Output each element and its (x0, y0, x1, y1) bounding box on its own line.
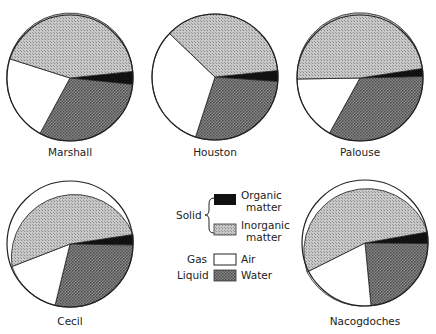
pie-label-cecil: Cecil (57, 315, 82, 327)
pie-label-marshall: Marshall (48, 146, 92, 158)
pie-marshall (6, 13, 133, 141)
pie-cecil (7, 181, 133, 307)
soil-composition-pie-charts: Marshall Houston Palouse Cecil Nacogdoch… (0, 0, 436, 334)
legend-label-air: Air (241, 253, 256, 265)
legend-label-water: Water (241, 269, 273, 281)
pie-label-nacogdoches: Nacogdoches (330, 315, 401, 327)
legend-label-inorganic-1: Inorganic (241, 219, 290, 231)
pie-label-houston: Houston (193, 146, 237, 158)
legend-group-gas: Gas (187, 253, 207, 265)
pie-nacogdoches (302, 180, 428, 306)
legend-label-inorganic-2: matter (246, 231, 282, 243)
slice-water (365, 243, 428, 306)
legend-swatch-water (214, 270, 236, 281)
pie-palouse (297, 13, 423, 141)
legend: Solid Organic matter Inorganic matter Ga… (176, 189, 290, 281)
legend-group-liquid: Liquid (177, 269, 209, 281)
legend-swatch-inorganic (214, 224, 236, 235)
legend-label-organic-1: Organic (241, 189, 282, 201)
legend-group-solid: Solid (176, 209, 202, 221)
pie-houston (152, 14, 278, 140)
legend-label-organic-2: matter (246, 201, 282, 213)
legend-swatch-air (214, 254, 236, 265)
pie-label-palouse: Palouse (340, 146, 380, 158)
legend-brace (205, 198, 214, 233)
legend-swatch-organic (214, 194, 236, 205)
slice-inorganic (297, 13, 423, 79)
